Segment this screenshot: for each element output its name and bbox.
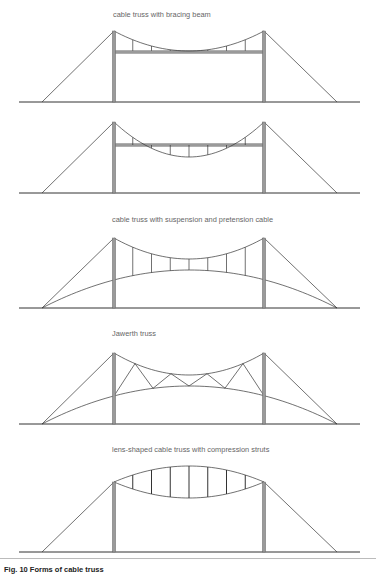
diagonal-strut (114, 364, 135, 396)
left-backstay-cable (42, 122, 114, 193)
right-tower (262, 482, 265, 552)
diagonal-strut (243, 364, 264, 396)
left-backstay-cable (42, 31, 114, 102)
right-tower (262, 122, 265, 193)
left-backstay-cable (42, 353, 114, 424)
diagonal-strut (189, 374, 207, 386)
figure-caption: Fig. 10 Forms of cable truss (4, 565, 104, 574)
right-tower (262, 353, 265, 424)
label-suspension-pretension: cable truss with suspension and pretensi… (112, 215, 273, 224)
right-backstay-cable (264, 353, 337, 424)
left-tower (112, 238, 115, 308)
right-backstay-cable (264, 31, 337, 102)
diagonal-strut (171, 374, 189, 386)
cable-truss-diagram (0, 0, 376, 575)
suspension-cable (114, 238, 264, 259)
left-tower (112, 353, 115, 424)
right-tower (262, 238, 265, 308)
label-lens-shaped: lens-shaped cable truss with compression… (112, 445, 269, 454)
label-bracing-beam: cable truss with bracing beam (113, 10, 211, 19)
right-backstay-cable (264, 238, 337, 308)
left-tower (112, 31, 115, 102)
left-tower (112, 122, 115, 193)
right-backstay-cable (264, 122, 337, 193)
diagonal-strut (207, 374, 225, 388)
suspension-cable (114, 353, 264, 375)
pretension-cable (42, 386, 337, 424)
label-jawerth-truss: Jawerth truss (112, 329, 156, 338)
caption-divider (0, 558, 376, 559)
right-tower (262, 31, 265, 102)
suspension-cable (114, 31, 264, 51)
pretension-cable (42, 270, 337, 308)
left-backstay-cable (42, 238, 114, 308)
right-backstay-cable (264, 482, 337, 552)
left-tower (112, 482, 115, 552)
diagonal-strut (153, 374, 171, 389)
left-backstay-cable (42, 482, 114, 552)
